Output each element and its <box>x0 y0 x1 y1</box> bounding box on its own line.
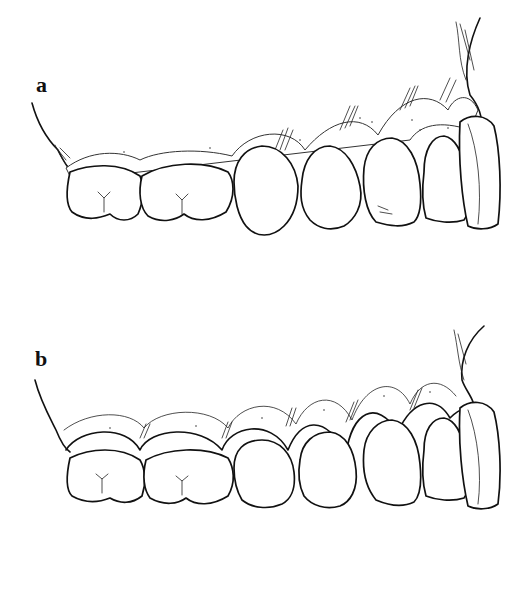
teeth-illustration-b <box>0 300 526 599</box>
panel-a: a <box>0 0 526 300</box>
panel-b: b <box>0 300 526 599</box>
teeth-illustration-a <box>0 0 526 300</box>
